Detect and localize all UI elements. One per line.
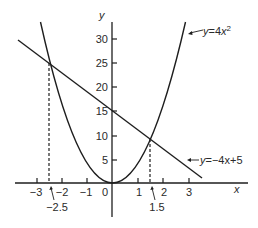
svg-text:25: 25 [96,57,108,69]
svg-text:−1: −1 [80,186,93,198]
straight-line [18,40,202,178]
svg-text:−2: −2 [56,186,69,198]
y-axis-label: y [98,9,106,21]
svg-text:0: 0 [102,186,108,198]
x-axis-label: x [233,183,240,195]
x-tick-labels: −3 −2 −1 0 1 2 3 [30,186,192,198]
svg-text:2: 2 [161,186,167,198]
parabola-curve [41,22,186,183]
svg-text:5: 5 [102,154,108,166]
svg-text:20: 20 [96,81,108,93]
function-graph: y x 5 10 15 20 25 30 −3 −2 −1 0 1 2 3 [0,0,258,228]
svg-text:30: 30 [96,33,108,45]
svg-text:1: 1 [136,186,142,198]
y-ticks [112,39,117,160]
svg-text:−3: −3 [30,186,43,198]
line-label: y=−4x+5 [187,154,243,166]
svg-text:3: 3 [186,186,192,198]
svg-text:y=4x2: y=4x2 [202,24,232,37]
svg-text:−2.5: −2.5 [46,201,68,213]
svg-text:10: 10 [96,130,108,142]
parabola-label: y=4x2 [188,24,232,37]
svg-text:1.5: 1.5 [149,201,164,213]
svg-text:y=−4x+5: y=−4x+5 [199,154,243,166]
x-ticks [37,178,189,183]
